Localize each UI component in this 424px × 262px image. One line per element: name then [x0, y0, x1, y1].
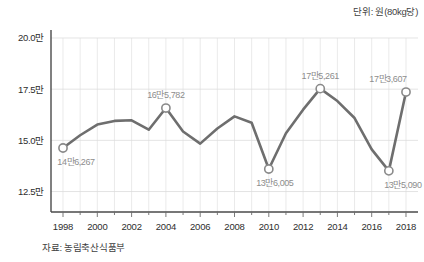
svg-text:2018: 2018	[396, 221, 416, 232]
svg-text:2004: 2004	[156, 221, 176, 232]
svg-text:15.0만: 15.0만	[18, 135, 44, 146]
svg-text:2008: 2008	[224, 221, 244, 232]
svg-text:2016: 2016	[362, 221, 382, 232]
svg-text:2012: 2012	[293, 221, 313, 232]
vertical-gridlines	[63, 38, 406, 212]
svg-text:17.5만: 17.5만	[18, 84, 44, 95]
svg-text:2014: 2014	[327, 221, 347, 232]
svg-text:13만5,090: 13만5,090	[384, 180, 422, 190]
svg-text:16만5,782: 16만5,782	[147, 90, 185, 100]
svg-text:12.5만: 12.5만	[18, 186, 44, 197]
svg-text:13만6,005: 13만6,005	[256, 178, 294, 188]
svg-text:17만5,261: 17만5,261	[302, 71, 340, 81]
svg-text:2000: 2000	[87, 221, 107, 232]
svg-text:2006: 2006	[190, 221, 210, 232]
rice-price-line-chart: 단위: 원(80kg당) 20.0만17.5만15.0만12.5만 199820…	[0, 0, 424, 262]
svg-text:2010: 2010	[259, 221, 279, 232]
y-axis-tick-labels: 20.0만17.5만15.0만12.5만	[18, 32, 44, 197]
svg-text:20.0만: 20.0만	[18, 32, 44, 43]
chart-plot-area: 20.0만17.5만15.0만12.5만 1998200020022004200…	[0, 0, 424, 262]
svg-text:14만6,267: 14만6,267	[57, 157, 95, 167]
svg-text:2002: 2002	[121, 221, 141, 232]
svg-text:17만3,607: 17만3,607	[369, 74, 407, 84]
svg-text:1998: 1998	[53, 221, 73, 232]
x-axis-tickmarks	[63, 212, 406, 217]
x-axis-tick-labels: 1998200020022004200620082010201220142016…	[53, 221, 416, 232]
data-point-value-labels: 14만6,26716만5,78213만6,00517만5,26113만5,090…	[57, 71, 422, 190]
chart-source-note: 자료: 농림축산식품부	[42, 240, 125, 254]
